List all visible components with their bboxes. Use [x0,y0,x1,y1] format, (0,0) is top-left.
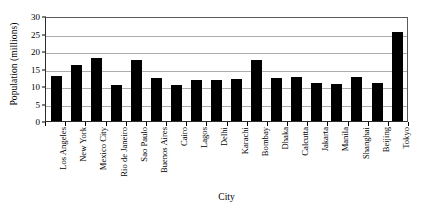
bar-slot [166,18,186,121]
bar [372,83,383,121]
y-axis-title: Population (millions) [5,0,23,128]
bars-layer [46,18,407,121]
x-tick-mark [227,122,228,126]
bar-slot [327,18,347,121]
bar [211,80,222,121]
y-tick-label: 20 [31,48,40,57]
x-label-slot: Tokyo [388,127,408,185]
x-tick-mark [85,122,86,126]
x-tick-mark [146,122,147,126]
x-label-slot: Shanghai [348,127,368,185]
bar [71,65,82,121]
x-tick-mark [186,122,187,126]
x-axis-category-labels: Los AngelesNew YorkMexico CityRio de Jan… [45,127,408,185]
bar-slot [227,18,247,121]
x-tick-mark [327,122,328,126]
x-axis-tick-marks [45,122,408,126]
x-tick-mark [287,122,288,126]
y-tick-label: 30 [31,13,40,22]
y-axis-tick-labels: 051015202530 [22,17,42,122]
bar [271,78,282,121]
x-label-slot: Cairo [166,127,186,185]
x-label-slot: Karachi [227,127,247,185]
x-tick-mark [267,122,268,126]
bar [311,83,322,122]
x-tick-mark [65,122,66,126]
bar-slot [186,18,206,121]
bar-slot [347,18,367,121]
x-label-slot: Dhaka [267,127,287,185]
x-tick-mark [45,122,46,126]
bar [392,32,403,121]
x-label-slot: Bombay [247,127,267,185]
bar-slot [207,18,227,121]
bar-slot [267,18,287,121]
bar [171,85,182,121]
x-tick-mark [126,122,127,126]
bar [191,80,202,121]
x-label-slot: Jakarta [307,127,327,185]
population-bar-chart: Population (millions) 051015202530 Los A… [0,0,426,219]
bar [231,79,242,121]
x-label-slot: Sao Paulo [126,127,146,185]
bar-slot [106,18,126,121]
bar-slot [287,18,307,121]
x-label-slot: Los Angeles [45,127,65,185]
bar [331,84,342,121]
bar-slot [387,18,407,121]
bar [151,78,162,121]
y-tick-label: 25 [31,30,40,39]
x-tick-mark [106,122,107,126]
x-label-slot: Delhi [206,127,226,185]
x-label-slot: Mexico City [85,127,105,185]
x-tick-label: Tokyo [402,127,411,149]
x-tick-mark [368,122,369,126]
x-tick-mark [247,122,248,126]
x-tick-mark [348,122,349,126]
x-tick-mark [206,122,207,126]
bar-slot [307,18,327,121]
bar [51,76,62,122]
bar-slot [86,18,106,121]
y-tick-label: 0 [36,118,41,127]
bar [91,58,102,121]
x-label-slot: Lagos [186,127,206,185]
x-label-slot: Calcutta [287,127,307,185]
x-label-slot: Rio de Janeiro [106,127,126,185]
plot-area [45,17,408,122]
x-label-slot: Buenos Aires [146,127,166,185]
x-axis-title: City [45,192,408,202]
bar-slot [66,18,86,121]
y-tick-label: 10 [31,83,40,92]
bar [291,77,302,121]
bar [131,60,142,121]
x-label-slot: New York [65,127,85,185]
bar-slot [146,18,166,121]
bar [251,60,262,121]
x-tick-mark [307,122,308,126]
x-label-slot: Beijing [368,127,388,185]
y-tick-label: 15 [31,65,40,74]
bar-slot [247,18,267,121]
bar-slot [46,18,66,121]
x-tick-mark [166,122,167,126]
y-axis-title-text: Population (millions) [9,22,19,105]
x-label-slot: Manila [327,127,347,185]
y-tick-label: 5 [36,100,41,109]
bar-slot [126,18,146,121]
bar [111,85,122,121]
bar-slot [367,18,387,121]
x-tick-mark [408,122,409,126]
x-tick-mark [388,122,389,126]
bar [351,77,362,121]
